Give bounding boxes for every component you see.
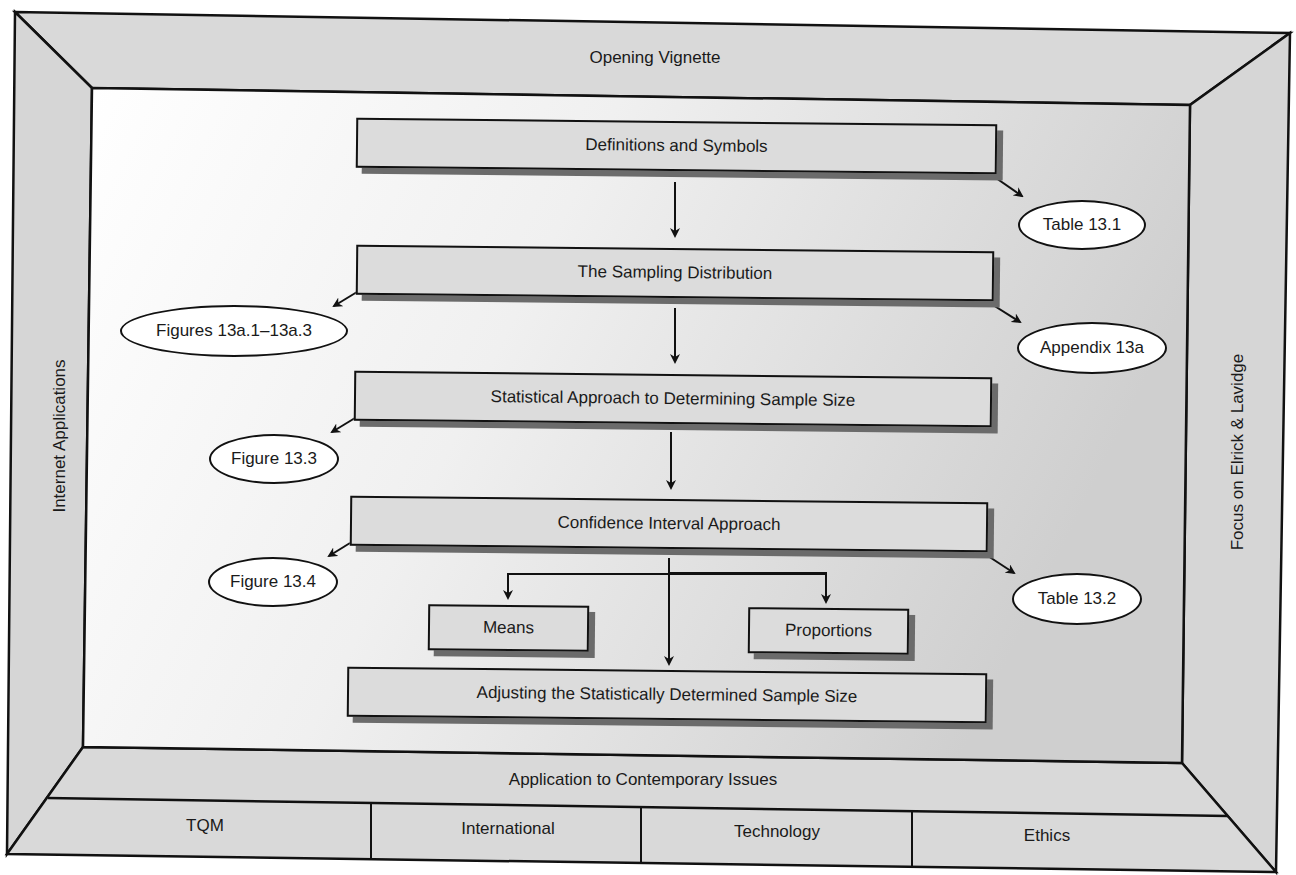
technology-cell: Technology bbox=[734, 822, 820, 842]
step-statistical-approach: Statistical Approach to Determining Samp… bbox=[354, 371, 992, 428]
step-confidence-interval: Confidence Interval Approach bbox=[350, 496, 988, 553]
branch-means: Means bbox=[428, 604, 589, 652]
step-sampling-distribution: The Sampling Distribution bbox=[356, 245, 994, 302]
ref-figure-13-4: Figure 13.4 bbox=[208, 557, 338, 607]
opening-vignette-label: Opening Vignette bbox=[589, 48, 720, 68]
focus-on-elrick-lavidge-label: Focus on Elrick & Lavidge bbox=[1228, 354, 1248, 551]
ref-table-13-1: Table 13.1 bbox=[1018, 200, 1146, 250]
branch-proportions: Proportions bbox=[748, 607, 909, 655]
internet-applications-label: Internet Applications bbox=[50, 359, 70, 512]
tqm-cell: TQM bbox=[186, 816, 224, 836]
step-adjusting-sample-size: Adjusting the Statistically Determined S… bbox=[347, 667, 987, 724]
ref-table-13-2: Table 13.2 bbox=[1012, 573, 1142, 625]
frame-bottom-panel bbox=[7, 747, 1276, 872]
ref-figure-13-3: Figure 13.3 bbox=[209, 434, 339, 484]
ref-appendix-13a: Appendix 13a bbox=[1017, 322, 1167, 374]
international-cell: International bbox=[461, 819, 555, 839]
step-definitions-symbols: Definitions and Symbols bbox=[356, 118, 997, 175]
inner-panel bbox=[83, 88, 1190, 763]
ethics-cell: Ethics bbox=[1024, 826, 1070, 846]
application-contemporary-issues-label: Application to Contemporary Issues bbox=[509, 770, 777, 790]
ref-figures-13a: Figures 13a.1–13a.3 bbox=[120, 305, 348, 357]
